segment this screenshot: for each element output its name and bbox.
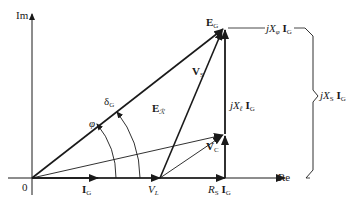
load-voltage-label: VL — [148, 184, 159, 197]
capacitor-voltage-label: VC — [206, 141, 219, 154]
current-label: IG — [82, 184, 91, 197]
power-angle-arc — [117, 112, 140, 178]
air-gap-emf-label: Eℛ — [152, 103, 165, 116]
imaginary-axis-label: Im — [16, 10, 28, 21]
phasor-diagram — [0, 0, 358, 203]
origin-label: 0 — [22, 182, 28, 193]
phase-angle-arc — [97, 124, 116, 178]
synchronous-reactance-brace — [305, 28, 318, 178]
generator-emf-phasor-eg — [32, 29, 223, 178]
synchronous-drop-label: jXS IG — [320, 90, 346, 103]
generator-emf-label: EG — [206, 17, 218, 30]
phase-angle-label: φ — [89, 118, 95, 129]
leakage-drop-label: jXℓ IG — [230, 100, 255, 113]
stator-voltage-label: VS — [192, 66, 204, 79]
magnetizing-drop-label: jXφ IG — [266, 23, 292, 36]
resistive-drop-label: RS IG — [208, 184, 231, 197]
power-angle-label: δG — [104, 96, 114, 109]
real-axis-label: Re — [278, 172, 290, 183]
